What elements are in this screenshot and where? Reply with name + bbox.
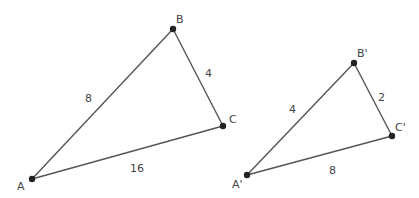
length-ac-prime: 8 — [329, 164, 336, 177]
length-ab: 8 — [85, 92, 92, 105]
label-c-prime: C' — [395, 121, 406, 134]
side-ac — [32, 126, 223, 179]
side-ab-prime — [247, 63, 354, 175]
triangle-abc: A B C 8 4 16 — [17, 13, 237, 193]
side-ab — [32, 29, 173, 179]
length-bc: 4 — [205, 67, 212, 80]
side-bc — [173, 29, 223, 126]
similar-triangles-diagram: A B C 8 4 16 A' B' C' 4 2 8 — [0, 0, 419, 198]
point-a-prime — [244, 172, 250, 178]
label-a: A — [17, 180, 25, 193]
label-c: C — [229, 113, 237, 126]
point-a — [29, 176, 35, 182]
point-c — [220, 123, 226, 129]
point-b-prime — [351, 60, 357, 66]
label-a-prime: A' — [232, 178, 243, 191]
label-b-prime: B' — [357, 47, 368, 60]
point-b — [170, 26, 176, 32]
triangle-abc-prime: A' B' C' 4 2 8 — [232, 47, 406, 191]
side-ac-prime — [247, 136, 392, 175]
length-bc-prime: 2 — [378, 91, 385, 104]
side-bc-prime — [354, 63, 392, 136]
length-ac: 16 — [130, 162, 144, 175]
label-b: B — [176, 13, 184, 26]
length-ab-prime: 4 — [289, 103, 296, 116]
